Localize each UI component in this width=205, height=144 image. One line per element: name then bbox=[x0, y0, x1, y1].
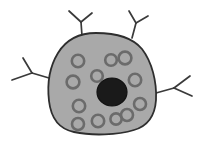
organelle-8 bbox=[73, 100, 85, 112]
organelle-1 bbox=[72, 55, 84, 67]
organelle-12 bbox=[110, 113, 121, 124]
nucleus bbox=[97, 78, 127, 106]
organelle-4 bbox=[91, 70, 103, 82]
organelle-3 bbox=[119, 52, 132, 65]
organelle-7 bbox=[134, 98, 146, 110]
cell-diagram-canvas bbox=[0, 0, 205, 144]
organelle-2 bbox=[105, 54, 117, 66]
cell-diagram-figure bbox=[0, 0, 205, 144]
organelle-5 bbox=[67, 76, 80, 89]
organelle-10 bbox=[72, 118, 84, 130]
organelle-6 bbox=[129, 74, 141, 86]
organelle-11 bbox=[92, 115, 104, 127]
